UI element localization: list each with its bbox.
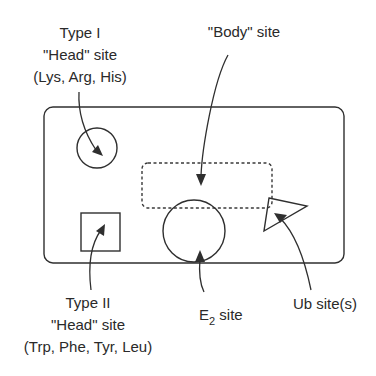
type-i-label-line2: "Head" site bbox=[43, 46, 117, 63]
type-ii-label-line2: "Head" site bbox=[51, 316, 125, 333]
type-ii-arrow-line bbox=[90, 230, 101, 290]
ub-site-triangle bbox=[264, 198, 307, 231]
type-ii-label-line1: Type II bbox=[65, 294, 110, 311]
body-site-dashed-region bbox=[142, 163, 272, 208]
body-site-label: "Body" site bbox=[208, 23, 280, 40]
e2-arrowhead-icon bbox=[195, 250, 205, 262]
ub-arrow-line bbox=[280, 218, 311, 290]
type-i-label-line3: (Lys, Arg, His) bbox=[33, 68, 127, 85]
type-i-label-line1: Type I bbox=[60, 24, 101, 41]
e2-site-circle bbox=[163, 200, 225, 262]
type-ii-arrowhead-icon bbox=[96, 224, 105, 236]
type-i-arrow-line bbox=[79, 92, 96, 150]
body-arrowhead-icon bbox=[196, 174, 206, 186]
body-arrow-line bbox=[201, 55, 228, 176]
e2-site-label-rest: site bbox=[215, 306, 243, 323]
type-ii-label-line3: (Trp, Phe, Tyr, Leu) bbox=[24, 338, 152, 355]
e2-site-label-main: E bbox=[199, 306, 209, 323]
e3-ligase-site-diagram: Type I "Head" site (Lys, Arg, His) "Body… bbox=[0, 0, 376, 376]
ub-site-label: Ub site(s) bbox=[293, 295, 357, 312]
e2-site-label: E2 site bbox=[199, 306, 243, 327]
